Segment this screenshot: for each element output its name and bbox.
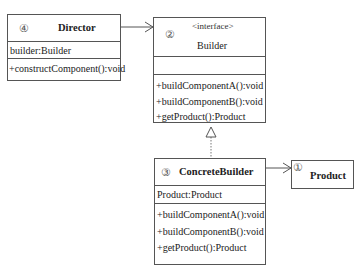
builder-attributes-section — [154, 56, 265, 75]
concretebuilder-product-association — [265, 163, 291, 173]
builder-methods-section: +buildComponentA():void +buildComponentB… — [154, 74, 265, 122]
concrete-builder-method: +getProduct():Product — [157, 242, 247, 254]
concrete-builder-class-name: ConcreteBuilder — [179, 166, 253, 178]
director-methods-section: +constructComponent():void — [8, 58, 120, 80]
builder-title-section: ② <interface> Builder — [154, 18, 265, 56]
builder-method: +buildComponentB():void — [156, 96, 263, 108]
product-class-name: Product — [310, 170, 346, 182]
product-number: ① — [293, 161, 303, 173]
concrete-builder-method: +buildComponentB():void — [157, 226, 264, 238]
class-product: ① Product — [291, 160, 354, 189]
director-attribute: builder:Builder — [10, 45, 71, 57]
builder-method: +buildComponentA():void — [156, 80, 263, 92]
concrete-builder-attribute: Product:Product — [157, 189, 222, 201]
director-class-name: Director — [58, 22, 96, 34]
director-title-section: ④ Director — [8, 15, 120, 41]
director-builder-association — [120, 22, 153, 32]
builder-stereotype: <interface> — [192, 20, 234, 32]
concrete-builder-title-section: ③ ConcreteBuilder — [155, 159, 265, 185]
concrete-builder-method: +buildComponentA():void — [157, 209, 264, 221]
class-director: ④ Director builder:Builder +constructCom… — [7, 14, 121, 81]
director-method: +constructComponent():void — [9, 63, 125, 75]
class-builder: ② <interface> Builder +buildComponentA()… — [153, 17, 266, 123]
concrete-builder-methods-section: +buildComponentA():void +buildComponentB… — [155, 203, 265, 264]
builder-class-name: Builder — [197, 40, 227, 52]
director-number: ④ — [19, 22, 29, 34]
realization-arrow — [206, 127, 216, 158]
builder-method: +getProduct():Product — [156, 111, 246, 123]
builder-number: ② — [165, 28, 175, 40]
concrete-builder-attributes-section: Product:Product — [155, 185, 265, 204]
director-attributes-section: builder:Builder — [8, 41, 120, 59]
concrete-builder-number: ③ — [161, 166, 171, 178]
class-concrete-builder: ③ ConcreteBuilder Product:Product +build… — [154, 158, 266, 265]
